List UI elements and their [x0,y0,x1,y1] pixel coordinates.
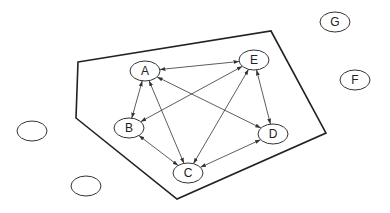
edge-a-c [149,81,184,164]
node-ellipse [71,176,101,196]
node-label: F [351,73,358,87]
edge-a-e [160,61,239,69]
node-label: B [125,121,133,135]
node-b: B [114,118,144,138]
node-f: F [340,70,370,90]
node-c: C [173,163,203,183]
node-label: E [250,53,258,67]
edge-e-c [193,69,248,163]
node-empty1 [17,121,47,141]
node-label: D [269,127,278,141]
edge-a-b [132,81,142,118]
edge-c-d [200,140,260,168]
node-label: C [184,166,193,180]
node-label: G [330,15,339,29]
node-label: A [141,64,149,78]
nodes-layer: ABCDEFG [17,12,370,196]
node-ellipse [17,121,47,141]
edge-e-d [257,70,271,124]
node-e: E [239,50,269,70]
node-a: A [130,61,160,81]
node-empty2 [71,176,101,196]
node-d: D [258,124,288,144]
edge-b-c [139,136,178,166]
graph-diagram: ABCDEFG [0,0,390,213]
node-g: G [320,12,350,32]
